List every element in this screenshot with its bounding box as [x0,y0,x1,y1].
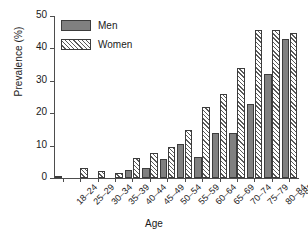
bar-women [185,130,192,178]
x-tick-mark [115,178,116,182]
x-tick-mark [237,178,238,182]
legend-swatch-men-icon [61,20,91,31]
y-tick-label: 40 [36,41,47,52]
x-tick-mark [185,178,186,182]
bar-men [177,144,184,178]
legend-item-women: Women [61,36,132,52]
bar-women [272,30,279,178]
bar-women [290,33,297,178]
y-tick-label: 30 [36,74,47,85]
bar-women [220,94,227,178]
bar-women [150,153,157,178]
x-tick-mark [98,178,99,182]
x-tick-mark [80,178,81,182]
legend-item-men: Men [61,17,132,33]
bar-men [264,74,271,178]
y-tick-label: 20 [36,106,47,117]
legend-label-men: Men [98,20,117,31]
bar-women [255,30,262,178]
bar-women [237,68,244,178]
bar-women [80,168,87,178]
bar-men [194,157,201,178]
y-axis-label: Prevalence (%) [13,0,24,127]
chart-legend: Men Women [61,17,132,55]
x-tick-mark [167,178,168,182]
bar-men [247,104,254,178]
x-tick-mark [254,178,255,182]
y-tick-mark [50,113,54,114]
y-tick-label: 10 [36,139,47,150]
legend-swatch-women-icon [61,39,91,50]
y-tick-mark [50,178,54,179]
x-tick-mark [220,178,221,182]
y-tick-mark [50,81,54,82]
chart-figure: Prevalence (%) 01020304050 18–2425–2930–… [0,0,308,237]
y-tick-label: 50 [36,9,47,20]
x-tick-mark [63,178,64,182]
x-tick-mark [202,178,203,182]
bar-women [133,158,140,178]
bar-men [229,133,236,178]
x-tick-mark [289,178,290,182]
x-axis-label: Age [0,218,308,229]
bar-women [202,107,209,178]
x-tick-mark [132,178,133,182]
bar-men [160,159,167,178]
bar-men [142,168,149,178]
x-tick-mark [150,178,151,182]
bar-men [125,170,132,178]
x-tick-mark [272,178,273,182]
y-tick-mark [50,146,54,147]
bar-women [98,171,105,178]
bar-men [55,176,62,178]
bar-women [115,173,122,178]
bar-men [212,133,219,178]
bar-men [282,39,289,178]
x-axis-line [54,178,299,179]
y-tick-label: 0 [41,171,47,182]
bar-women [168,147,175,178]
y-tick-mark [50,16,54,17]
y-tick-mark [50,48,54,49]
legend-label-women: Women [98,39,132,50]
